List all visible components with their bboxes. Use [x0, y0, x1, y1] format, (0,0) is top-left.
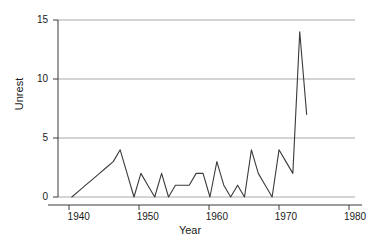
x-axis-title: Year — [155, 224, 225, 236]
unrest-series-line — [72, 32, 307, 197]
y-tick-label-15: 15 — [26, 15, 48, 25]
plot-area — [0, 0, 375, 247]
y-tick-label-0: 0 — [26, 192, 48, 202]
y-tick-label-10: 10 — [26, 74, 48, 84]
x-tick-label-1970: 1970 — [266, 212, 306, 222]
y-tick-label-5: 5 — [26, 133, 48, 143]
x-tick-label-1980: 1980 — [335, 212, 375, 222]
y-axis — [53, 20, 58, 197]
x-tick-label-1940: 1940 — [59, 212, 99, 222]
x-tick-label-1960: 1960 — [197, 212, 237, 222]
y-axis-title: Unrest — [13, 64, 25, 124]
unrest-by-year-line-chart: 051015 19401950196019701980 Unrest Year — [0, 0, 375, 247]
x-tick-label-1950: 1950 — [128, 212, 168, 222]
x-axis — [48, 205, 362, 210]
